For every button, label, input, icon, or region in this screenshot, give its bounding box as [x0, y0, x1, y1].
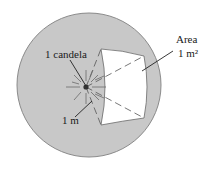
area-label-line2: 1 m²: [178, 47, 199, 59]
source-label: 1 candela: [45, 48, 87, 60]
radius-label: 1 m: [62, 114, 79, 126]
candela-diagram: 1 candela 1 m Area 1 m²: [0, 0, 203, 169]
area-label-line1: Area: [176, 33, 197, 45]
area-patch: [101, 49, 147, 125]
